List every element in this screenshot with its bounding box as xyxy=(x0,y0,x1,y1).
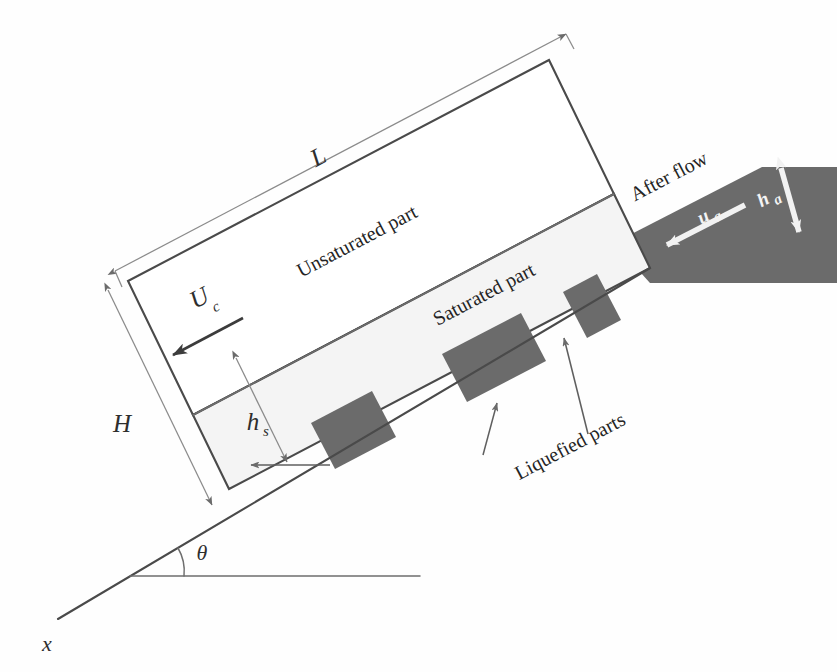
liquefied-leader-3 xyxy=(564,338,588,434)
slope-diagram: L H h s U c θ x Unsaturated part Saturat… xyxy=(0,0,837,672)
slope-angle-label: θ xyxy=(197,540,208,565)
dimension-L-label: L xyxy=(305,141,331,172)
dimension-L-tick-left xyxy=(115,271,122,287)
liquefied-parts-label: Liquefied parts xyxy=(511,408,630,485)
dimension-L-tick-right xyxy=(566,34,574,49)
liquefied-leader-2 xyxy=(483,403,497,455)
dimension-hs-label-sub: s xyxy=(263,423,269,439)
figure-root: L H h s U c θ x Unsaturated part Saturat… xyxy=(0,0,837,672)
angle-arc xyxy=(178,548,184,576)
axis-x-label: x xyxy=(41,631,52,656)
dimension-H-label: H xyxy=(112,410,133,437)
dimension-hs-label-base: h xyxy=(247,408,260,435)
after-flow-label: After flow xyxy=(627,146,712,205)
